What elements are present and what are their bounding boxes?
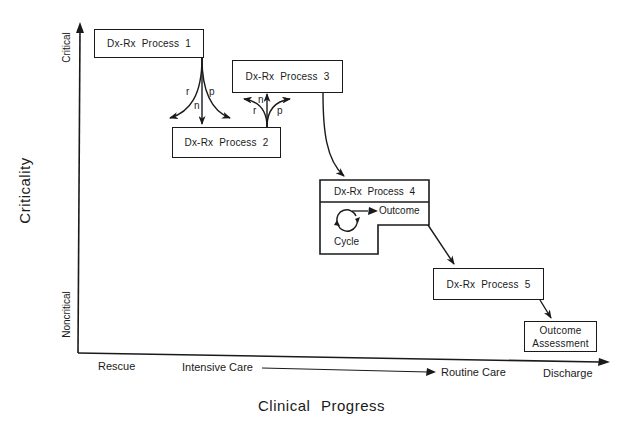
x-label-rescue: Rescue: [98, 360, 135, 372]
p1-branch-n: n: [194, 100, 200, 111]
process-2-box: Dx-Rx Process 2: [172, 127, 281, 158]
process-1-box: Dx-Rx Process 1: [94, 29, 204, 58]
p2-branch-r: r: [253, 105, 256, 116]
y-axis: [76, 22, 84, 353]
x-label-routine-care: Routine Care: [441, 366, 506, 378]
p1-branch-arrows: [170, 58, 230, 124]
process-1-label: Dx-Rx Process 1: [107, 38, 191, 49]
process-4-label: Dx-Rx Process 4: [320, 180, 429, 202]
p2-branch-arrows: [244, 94, 290, 127]
process-5-label: Dx-Rx Process 5: [446, 279, 530, 290]
y-axis-bottom-label: Noncritical: [61, 285, 72, 345]
x-label-discharge: Discharge: [543, 367, 593, 379]
p2-branch-p: p: [277, 105, 283, 116]
y-axis-top-label: Critical: [61, 26, 72, 70]
p5-to-final-arrow: [540, 300, 551, 318]
process-4-outcome-label: Outcome: [379, 205, 420, 216]
p3-to-p4-arrow: [323, 93, 344, 176]
p2-branch-n: n: [258, 94, 264, 105]
outcome-assessment-line2: Assessment: [532, 337, 588, 350]
p1-branch-r: r: [186, 86, 189, 97]
process-4-box: Dx-Rx Process 4 Outcome Cycle: [320, 180, 429, 254]
process-5-box: Dx-Rx Process 5: [433, 268, 544, 300]
x-axis: [78, 353, 610, 366]
x-axis-title: Clinical Progress: [258, 397, 385, 414]
y-axis-title: Criticality: [16, 155, 33, 227]
p1-branch-p: p: [209, 86, 215, 97]
progress-arrow: [262, 368, 436, 376]
p4-to-p5-arrow: [428, 225, 454, 264]
process-3-label: Dx-Rx Process 3: [245, 71, 329, 82]
process-4-cycle-label: Cycle: [334, 236, 359, 247]
x-label-intensive-care: Intensive Care: [182, 361, 253, 373]
outcome-assessment-box: Outcome Assessment: [524, 321, 597, 352]
process-2-label: Dx-Rx Process 2: [184, 137, 268, 148]
process-3-box: Dx-Rx Process 3: [232, 60, 343, 93]
outcome-assessment-line1: Outcome: [540, 324, 582, 337]
